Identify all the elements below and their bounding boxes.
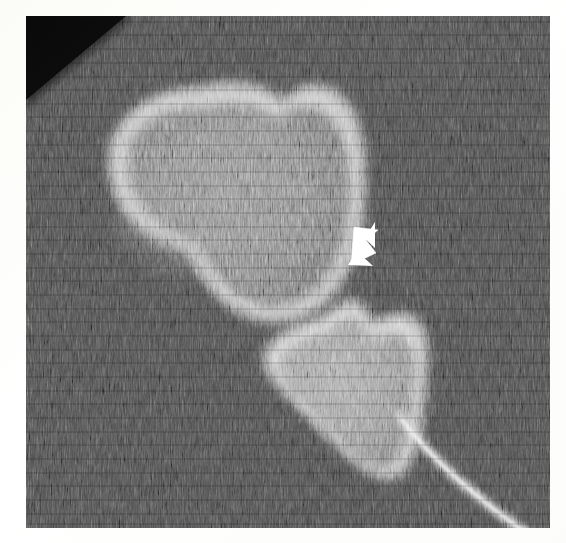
speckle-grain-layer-fine xyxy=(26,16,550,528)
ultrasound-scan-image xyxy=(26,16,550,528)
scan-canvas xyxy=(26,16,550,528)
ultrasound-figure: B-mode ultrasound upper hyperechoic roun… xyxy=(0,0,566,543)
